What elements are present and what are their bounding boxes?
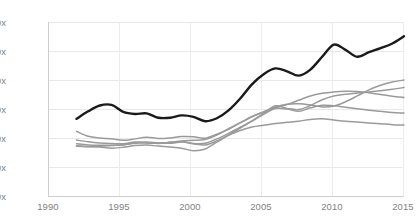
series-line [76, 80, 404, 140]
series-line [76, 88, 404, 144]
